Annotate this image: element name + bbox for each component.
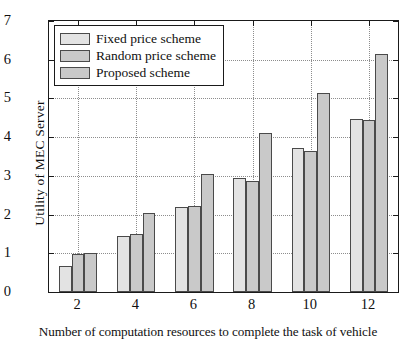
legend-item: Random price scheme (60, 47, 216, 64)
y-axis-tick (49, 215, 54, 216)
x-axis-tick-label: 8 (232, 297, 272, 312)
bar-fixed-price-scheme-10 (292, 148, 305, 292)
legend-item: Fixed price scheme (60, 30, 216, 47)
y-axis-tick (393, 98, 398, 99)
y-axis-tick (393, 60, 398, 61)
legend-swatch-icon (60, 33, 90, 45)
bar-chart-figure: Utility of MEC Server Number of computat… (0, 0, 416, 351)
y-axis-tick-label: 4 (0, 129, 11, 144)
legend-label: Proposed scheme (96, 66, 190, 80)
bar-fixed-price-scheme-4 (117, 236, 130, 292)
y-axis-tick (393, 21, 398, 22)
x-axis-tick-label: 10 (290, 297, 330, 312)
bar-proposed-scheme-10 (317, 93, 330, 292)
bar-fixed-price-scheme-2 (59, 266, 72, 292)
y-axis-tick (49, 176, 54, 177)
horizontal-gridline (49, 98, 398, 99)
legend-label: Random price scheme (96, 49, 216, 63)
legend-swatch-icon (60, 50, 90, 62)
bar-proposed-scheme-12 (375, 54, 388, 292)
y-axis-tick (393, 215, 398, 216)
y-axis-tick-label: 3 (0, 168, 11, 183)
chart-legend: Fixed price schemeRandom price schemePro… (54, 25, 224, 86)
x-axis-tick-label: 6 (173, 297, 213, 312)
bar-fixed-price-scheme-6 (175, 207, 188, 292)
x-axis-tick (311, 21, 312, 26)
y-axis-tick-label: 5 (0, 90, 11, 105)
bar-fixed-price-scheme-8 (233, 178, 246, 292)
bar-proposed-scheme-8 (259, 133, 272, 292)
y-axis-tick (393, 253, 398, 254)
legend-label: Fixed price scheme (96, 32, 201, 46)
bar-random-price-scheme-10 (304, 151, 317, 292)
legend-item: Proposed scheme (60, 64, 216, 81)
x-axis-tick (369, 21, 370, 26)
y-axis-tick (49, 137, 54, 138)
y-axis-tick-label: 1 (0, 245, 11, 260)
y-axis-tick-label: 0 (0, 284, 11, 299)
bar-random-price-scheme-6 (188, 206, 201, 292)
y-axis-tick-label: 7 (0, 13, 11, 28)
x-axis-title: Number of computation resources to compl… (0, 324, 416, 340)
bar-random-price-scheme-8 (246, 181, 259, 292)
legend-swatch-icon (60, 67, 90, 79)
bar-fixed-price-scheme-12 (350, 119, 363, 292)
bar-proposed-scheme-6 (201, 174, 214, 292)
y-axis-tick-label: 2 (0, 207, 11, 222)
x-axis-tick-label: 2 (57, 297, 97, 312)
bar-proposed-scheme-2 (84, 253, 97, 292)
y-axis-tick (393, 137, 398, 138)
y-axis-tick (49, 253, 54, 254)
y-axis-tick (49, 98, 54, 99)
bar-random-price-scheme-12 (363, 120, 376, 292)
horizontal-gridline (49, 137, 398, 138)
horizontal-gridline (49, 215, 398, 216)
x-axis-tick (253, 21, 254, 26)
bar-proposed-scheme-4 (143, 213, 156, 292)
y-axis-title: Utility of MEC Server (32, 53, 48, 273)
y-axis-tick-label: 6 (0, 52, 11, 67)
y-axis-tick (49, 21, 54, 22)
bar-random-price-scheme-4 (130, 234, 143, 292)
horizontal-gridline (49, 176, 398, 177)
y-axis-tick (393, 176, 398, 177)
x-axis-tick-label: 4 (115, 297, 155, 312)
x-axis-tick-label: 12 (348, 297, 388, 312)
horizontal-gridline (49, 253, 398, 254)
bar-random-price-scheme-2 (72, 254, 85, 292)
